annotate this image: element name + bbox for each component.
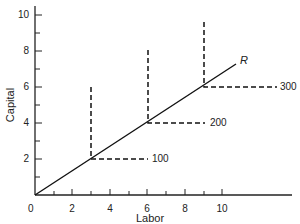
isoquant-200 bbox=[148, 50, 205, 123]
isoquant-100 bbox=[91, 87, 148, 159]
y-tick-label: 10 bbox=[18, 9, 30, 20]
y-ticks bbox=[35, 15, 42, 177]
expansion-path-line bbox=[35, 64, 236, 195]
y-tick-label: 2 bbox=[23, 153, 29, 164]
x-tick-label: 2 bbox=[69, 203, 75, 214]
y-tick-label: 4 bbox=[23, 117, 29, 128]
x-tick-label: 8 bbox=[182, 203, 188, 214]
y-tick-label: 6 bbox=[23, 81, 29, 92]
isoquant-300-label: 300 bbox=[280, 81, 297, 92]
y-axis-label: Capital bbox=[4, 88, 16, 122]
y-tick-label: 8 bbox=[23, 45, 29, 56]
x-tick-label: 10 bbox=[216, 203, 228, 214]
origin-label: 0 bbox=[28, 203, 34, 214]
x-ticks bbox=[54, 189, 222, 195]
x-axis-label: Labor bbox=[136, 212, 164, 224]
isoquant-100-label: 100 bbox=[152, 153, 169, 164]
x-tick-label: 4 bbox=[107, 203, 113, 214]
production-chart: 0 2 4 6 8 10 2 4 6 8 10 Labor Capital R … bbox=[0, 0, 300, 224]
isoquant-200-label: 200 bbox=[210, 117, 227, 128]
ray-label: R bbox=[240, 54, 248, 66]
